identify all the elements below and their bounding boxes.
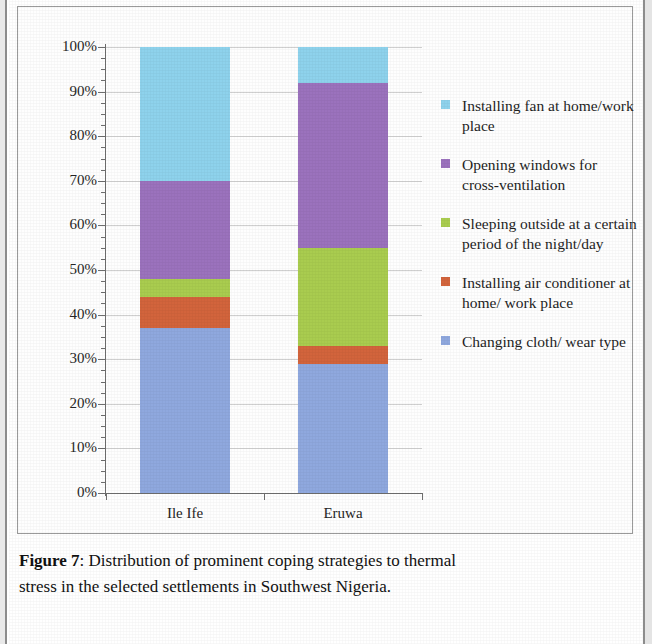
figure-7: 0%10%20%30%40%50%60%70%80%90%100% Ile If… — [9, 0, 643, 644]
legend-item: Sleeping outside at a certain period of … — [441, 214, 637, 254]
bar-segment — [140, 297, 230, 328]
bar-segment — [298, 364, 388, 493]
y-axis-label-40pct: 40% — [45, 307, 97, 322]
bar-segment — [298, 83, 388, 248]
x-tick — [264, 493, 265, 500]
caption-line-2: stress in the selected settlements in So… — [19, 574, 633, 600]
chart-legend: Installing fan at home/work placeOpening… — [441, 96, 637, 371]
y-axis-label-0pct: 0% — [45, 485, 97, 500]
x-tick — [422, 493, 423, 500]
bar-segment — [140, 181, 230, 279]
y-axis-labels: 0%10%20%30%40%50%60%70%80%90%100% — [39, 0, 97, 520]
bar-segment — [298, 346, 388, 364]
bar-segment — [140, 328, 230, 493]
bar-segment — [298, 248, 388, 346]
legend-label: Opening windows for cross-ventilation — [462, 156, 597, 193]
y-axis-label-20pct: 20% — [45, 396, 97, 411]
bar-eruwa — [298, 47, 388, 493]
legend-label: Installing fan at home/work place — [462, 97, 634, 134]
legend-label: Installing air conditioner at home/ work… — [462, 274, 630, 311]
legend-item: Changing cloth/ wear type — [441, 332, 637, 352]
legend-label: Changing cloth/ wear type — [462, 333, 626, 350]
bar-ile-ife — [140, 47, 230, 493]
legend-swatch-icon — [441, 159, 450, 168]
y-axis-line — [105, 44, 106, 496]
x-tick — [106, 493, 107, 500]
y-axis-label-10pct: 10% — [45, 440, 97, 455]
legend-swatch-icon — [441, 218, 450, 227]
legend-item: Installing fan at home/work place — [441, 96, 637, 136]
y-axis-label-30pct: 30% — [45, 351, 97, 366]
legend-swatch-icon — [441, 100, 450, 109]
legend-swatch-icon — [441, 336, 450, 345]
legend-label: Sleeping outside at a certain period of … — [462, 215, 637, 252]
figure-caption: Figure 7: Distribution of prominent copi… — [19, 548, 633, 600]
x-axis-label-eruwa: Eruwa — [283, 505, 403, 522]
y-axis-label-70pct: 70% — [45, 173, 97, 188]
page-edge-left — [0, 0, 7, 644]
legend-item: Opening windows for cross-ventilation — [441, 155, 637, 195]
legend-swatch-icon — [441, 277, 450, 286]
y-axis-label-60pct: 60% — [45, 217, 97, 232]
y-axis-label-100pct: 100% — [45, 39, 97, 54]
y-axis-label-80pct: 80% — [45, 128, 97, 143]
caption-figure-label: Figure 7 — [19, 551, 80, 570]
bar-segment — [298, 47, 388, 83]
y-axis-label-90pct: 90% — [45, 84, 97, 99]
bar-segment — [140, 47, 230, 181]
bar-segment — [140, 279, 230, 297]
legend-item: Installing air conditioner at home/ work… — [441, 273, 637, 313]
page-edge-right — [643, 0, 652, 644]
x-axis-label-ile-ife: Ile Ife — [125, 505, 245, 522]
y-axis-label-50pct: 50% — [45, 262, 97, 277]
caption-separator: : — [80, 551, 85, 570]
caption-line-1: Distribution of prominent coping strateg… — [89, 551, 456, 570]
